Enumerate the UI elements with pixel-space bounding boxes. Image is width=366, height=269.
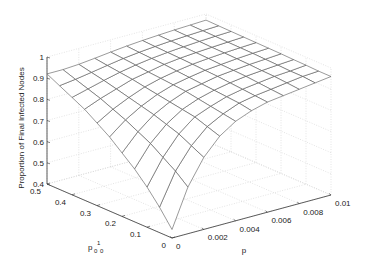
y-axis-label: p 0 1 0	[88, 240, 104, 254]
svg-text:0: 0	[100, 248, 104, 254]
svg-text:0.3: 0.3	[80, 209, 92, 218]
svg-text:0.002: 0.002	[208, 233, 229, 242]
svg-text:0.9: 0.9	[33, 74, 45, 83]
svg-text:0.004: 0.004	[240, 225, 261, 234]
svg-text:0: 0	[176, 242, 181, 251]
svg-text:1: 1	[97, 240, 101, 246]
surface-mesh	[47, 20, 331, 229]
svg-text:0.2: 0.2	[105, 219, 117, 228]
svg-text:0: 0	[162, 241, 167, 250]
svg-text:p: p	[88, 243, 93, 252]
svg-text:0.006: 0.006	[271, 216, 292, 225]
z-axis-label: Proportion of Final Infected Nodes	[17, 67, 26, 188]
svg-text:0.7: 0.7	[33, 117, 45, 126]
surface-plot: 0.40.50.60.70.80.9100.10.20.30.40.500.00…	[0, 0, 366, 269]
svg-text:0.1: 0.1	[130, 230, 142, 239]
svg-text:1: 1	[40, 53, 45, 62]
svg-text:0.4: 0.4	[55, 198, 67, 207]
svg-text:0.008: 0.008	[303, 208, 324, 217]
svg-text:0: 0	[94, 248, 98, 254]
svg-text:0.5: 0.5	[30, 187, 42, 196]
svg-text:0.8: 0.8	[33, 95, 45, 104]
x-axis-label: p	[242, 246, 247, 255]
svg-text:0.01: 0.01	[335, 199, 351, 208]
svg-text:0.6: 0.6	[33, 138, 45, 147]
svg-text:0.5: 0.5	[33, 159, 45, 168]
